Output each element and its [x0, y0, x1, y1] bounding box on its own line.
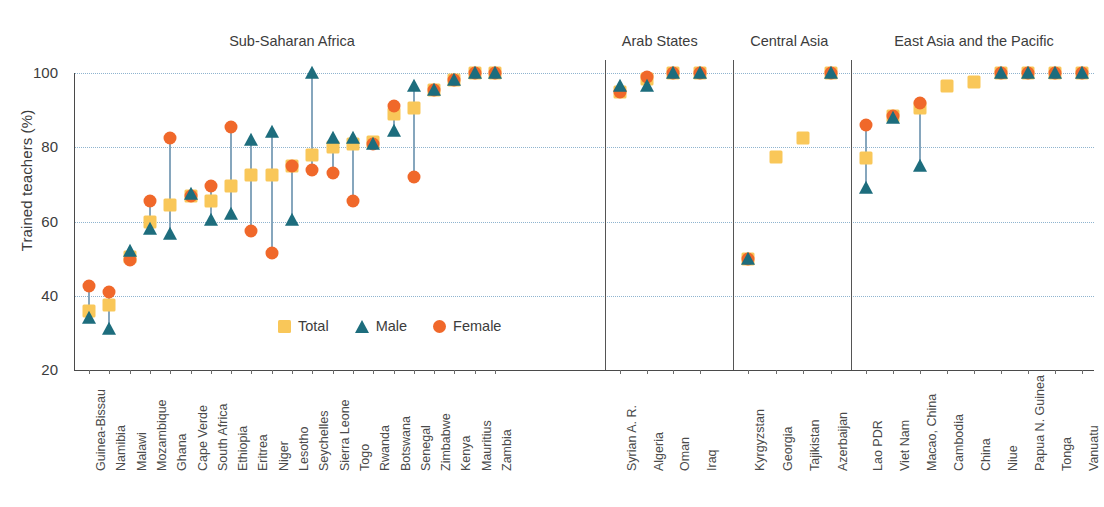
x-label-cambodia: Cambodia	[952, 414, 966, 471]
marker-male	[265, 125, 279, 138]
marker-male	[488, 66, 502, 79]
marker-male	[741, 251, 755, 264]
x-tick-mark	[776, 370, 777, 374]
x-label-tonga: Tonga	[1060, 437, 1074, 471]
x-label-mozambique: Mozambique	[155, 399, 169, 471]
x-tick-mark	[700, 370, 701, 374]
x-tick-mark	[211, 370, 212, 374]
marker-female	[204, 180, 217, 193]
y-tick-label-100: 100	[24, 64, 58, 81]
marker-female	[860, 118, 873, 131]
y-axis-line	[74, 73, 75, 370]
marker-female	[286, 159, 299, 172]
x-label-namibia: Namibia	[114, 425, 128, 471]
marker-female	[143, 195, 156, 208]
region-title-sub-saharan-africa: Sub-Saharan Africa	[229, 33, 355, 49]
x-tick-mark	[454, 370, 455, 374]
x-tick-mark	[312, 370, 313, 374]
x-label-china: China	[979, 438, 993, 471]
x-label-niue: Niue	[1006, 445, 1020, 471]
x-tick-mark	[251, 370, 252, 374]
marker-total	[103, 299, 116, 312]
x-tick-mark	[130, 370, 131, 374]
x-label-iraq: Iraq	[705, 449, 719, 471]
x-tick-mark	[272, 370, 273, 374]
x-tick-mark	[947, 370, 948, 374]
region-title-arab-states: Arab States	[622, 33, 698, 49]
marker-female	[407, 170, 420, 183]
male-swatch-icon	[355, 320, 369, 333]
marker-male	[163, 227, 177, 240]
marker-male	[305, 66, 319, 79]
x-label-ghana: Ghana	[175, 433, 189, 471]
y-tick-label-40: 40	[24, 287, 58, 304]
marker-female	[245, 224, 258, 237]
marker-total	[306, 148, 319, 161]
gridline-60	[74, 222, 1094, 223]
x-tick-mark	[109, 370, 110, 374]
x-label-sierra-leone: Sierra Leone	[338, 399, 352, 471]
marker-total	[164, 198, 177, 211]
x-tick-mark	[394, 370, 395, 374]
x-tick-mark	[673, 370, 674, 374]
x-tick-mark	[647, 370, 648, 374]
plot-area: Trained teachers (%) 20406080100 Sub-Sah…	[0, 0, 1104, 507]
marker-male	[994, 66, 1008, 79]
x-tick-mark	[1001, 370, 1002, 374]
x-tick-mark	[475, 370, 476, 374]
marker-male	[326, 131, 340, 144]
value-connector	[413, 86, 415, 177]
x-label-viet-nam: Viet Nam	[898, 420, 912, 471]
marker-female	[83, 280, 96, 293]
x-label-syrian-a-r-: Syrian A. R.	[625, 405, 639, 471]
x-tick-mark	[1028, 370, 1029, 374]
legend-item-male: Male	[355, 318, 407, 334]
x-tick-mark	[373, 370, 374, 374]
x-label-seychelles: Seychelles	[317, 411, 331, 471]
total-swatch-icon	[278, 320, 291, 333]
marker-male	[184, 187, 198, 200]
region-separator-1	[605, 60, 606, 370]
y-tick-label-60: 60	[24, 213, 58, 230]
region-separator-2	[733, 60, 734, 370]
marker-male	[693, 66, 707, 79]
marker-female	[306, 163, 319, 176]
x-label-zimbabwe: Zimbabwe	[439, 413, 453, 471]
x-tick-mark	[748, 370, 749, 374]
x-label-oman: Oman	[678, 437, 692, 471]
x-label-algeria: Algeria	[652, 432, 666, 471]
x-label-lesotho: Lesotho	[297, 427, 311, 471]
x-label-mauritius: Mauritius	[480, 420, 494, 471]
marker-male	[82, 311, 96, 324]
x-label-guinea-bissau: Guinea-Bissau	[94, 389, 108, 471]
marker-male	[123, 244, 137, 257]
legend-item-total: Total	[278, 318, 329, 334]
marker-male	[143, 222, 157, 235]
x-label-papua-n-guinea: Papua N. Guinea	[1033, 375, 1047, 471]
region-title-east-asia-and-the-pacific: East Asia and the Pacific	[894, 33, 1054, 49]
marker-male	[447, 73, 461, 86]
marker-male	[285, 212, 299, 225]
x-label-south-africa: South Africa	[216, 404, 230, 471]
marker-male	[102, 322, 116, 335]
x-label-tajikistan: Tajikistan	[808, 420, 822, 471]
x-label-eritrea: Eritrea	[256, 434, 270, 471]
marker-total	[941, 79, 954, 92]
marker-total	[407, 102, 420, 115]
x-label-botswana: Botswana	[399, 416, 413, 471]
x-label-niger: Niger	[277, 441, 291, 471]
x-tick-mark	[866, 370, 867, 374]
x-tick-mark	[333, 370, 334, 374]
marker-total	[769, 150, 782, 163]
x-label-zambia: Zambia	[500, 429, 514, 471]
marker-total	[968, 76, 981, 89]
marker-total	[204, 195, 217, 208]
x-label-cape-verde: Cape Verde	[196, 405, 210, 471]
marker-female	[914, 96, 927, 109]
x-tick-mark	[1055, 370, 1056, 374]
x-tick-mark	[231, 370, 232, 374]
marker-female	[326, 167, 339, 180]
x-tick-mark	[831, 370, 832, 374]
x-label-lao-pdr: Lao PDR	[871, 420, 885, 471]
marker-female	[387, 100, 400, 113]
